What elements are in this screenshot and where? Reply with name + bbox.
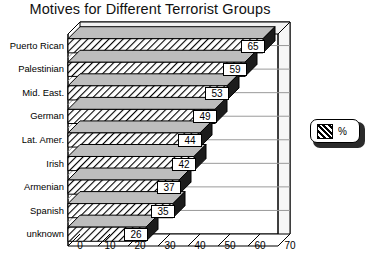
bar-value-label: 35: [151, 205, 175, 218]
legend-label: %: [338, 126, 347, 137]
x-axis-tick-label: 50: [220, 240, 240, 251]
legend: %: [310, 119, 362, 145]
legend-body: %: [310, 119, 360, 143]
bar-value-label: 53: [205, 87, 229, 100]
x-axis-tick-label: 60: [250, 240, 270, 251]
x-axis-tick-label: 0: [70, 240, 90, 251]
x-axis-tick-label: 40: [190, 240, 210, 251]
bar-value-label: 65: [241, 40, 265, 53]
bar-value-label: 37: [157, 181, 181, 194]
chart-root: Motives for Different Terrorist Groups P…: [0, 0, 377, 268]
x-axis-tick-label: 70: [280, 240, 300, 251]
chart-title: Motives for Different Terrorist Groups: [0, 1, 300, 17]
bar-value-label: 59: [223, 63, 247, 76]
x-axis-tick-label: 10: [100, 240, 120, 251]
bar-value-label: 49: [193, 110, 217, 123]
chart-svg: [0, 20, 300, 268]
x-axis-tick-label: 20: [130, 240, 150, 251]
bar-value-label: 44: [178, 134, 202, 147]
x-axis-tick-label: 30: [160, 240, 180, 251]
legend-swatch-icon: [317, 124, 333, 139]
bar-value-label: 42: [172, 158, 196, 171]
plot-area: 655953494442373526010203040506070: [0, 20, 300, 268]
